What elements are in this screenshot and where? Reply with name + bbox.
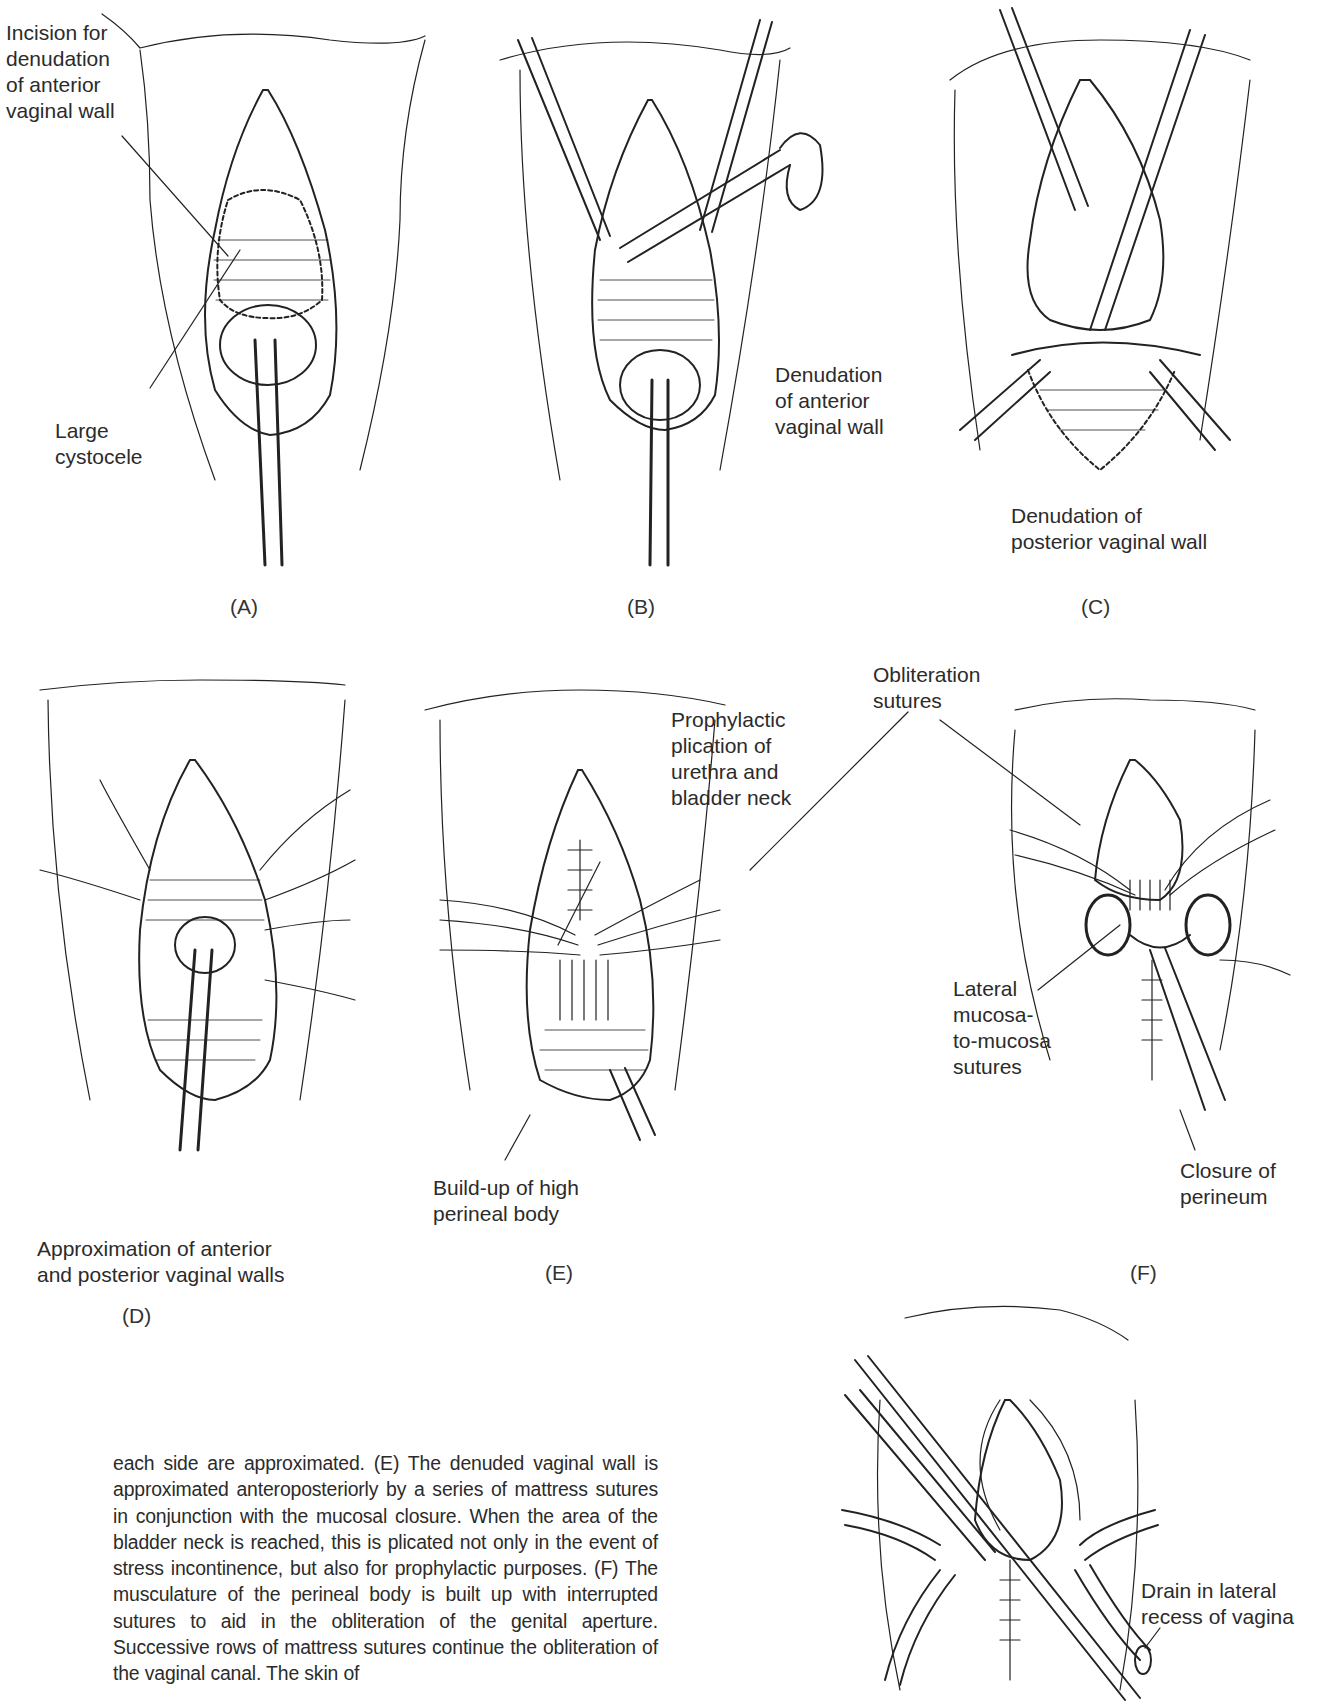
panel-c-illustration xyxy=(950,8,1250,470)
panel-d-illustration xyxy=(40,680,355,1150)
label-build-up-perineal-body: Build-up of high perineal body xyxy=(433,1175,579,1227)
panel-tag-e: (E) xyxy=(545,1260,573,1286)
figure-caption-text: each side are approximated. (E) The denu… xyxy=(113,1450,658,1687)
panel-a-illustration xyxy=(102,14,425,565)
caption-paragraph: each side are approximated. (E) The denu… xyxy=(113,1450,658,1687)
label-denudation-posterior-wall: Denudation of posterior vaginal wall xyxy=(1011,503,1207,555)
label-drain-lateral-recess: Drain in lateral recess of vagina xyxy=(1141,1578,1294,1630)
label-obliteration-sutures: Obliteration sutures xyxy=(873,662,980,714)
label-large-cystocele: Large cystocele xyxy=(55,418,143,470)
label-incision-for-denudation: Incision for denudation of anterior vagi… xyxy=(6,20,115,124)
panel-tag-c: (C) xyxy=(1081,594,1110,620)
panel-tag-b: (B) xyxy=(627,594,655,620)
label-denudation-anterior-wall: Denudation of anterior vaginal wall xyxy=(775,362,884,440)
label-prophylactic-plication: Prophylactic plication of urethra and bl… xyxy=(671,707,791,811)
label-lateral-mucosa-sutures: Lateral mucosa- to-mucosa sutures xyxy=(953,976,1051,1080)
panel-g-illustration xyxy=(842,1306,1160,1700)
panel-f-illustration xyxy=(750,699,1290,1150)
panel-b-illustration xyxy=(500,20,823,565)
panel-tag-a: (A) xyxy=(230,594,258,620)
label-closure-of-perineum: Closure of perineum xyxy=(1180,1158,1276,1210)
label-approximation-walls: Approximation of anterior and posterior … xyxy=(37,1236,284,1288)
panel-tag-d: (D) xyxy=(122,1303,151,1329)
panel-tag-f: (F) xyxy=(1130,1260,1157,1286)
